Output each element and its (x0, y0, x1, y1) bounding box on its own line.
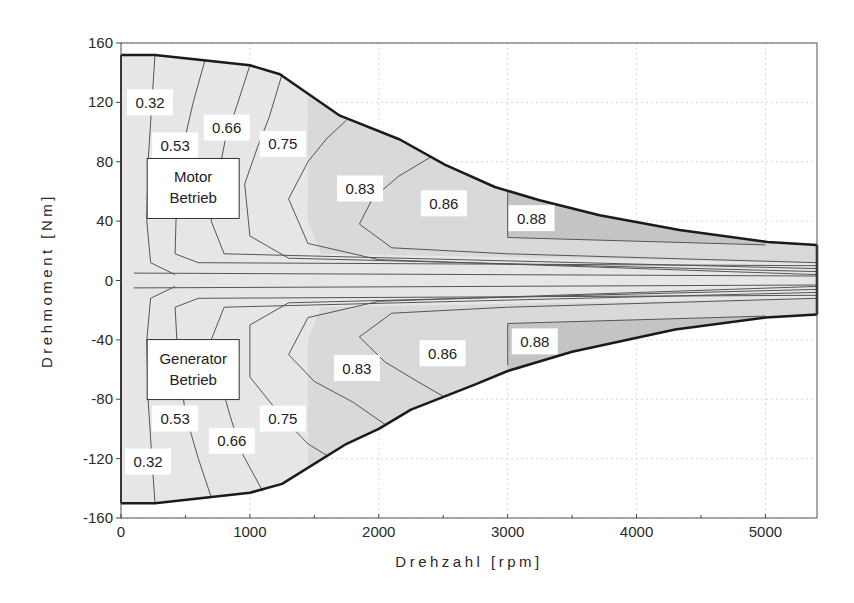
efficiency-map-chart: 01000200030004000500016012080400-40-80-1… (0, 0, 854, 603)
y-tick-label: 160 (88, 34, 113, 51)
x-tick-label: 2000 (362, 523, 395, 540)
x-tick-label: 1000 (233, 523, 266, 540)
y-tick-label: -160 (83, 509, 113, 526)
contour-label-text: 0.83 (342, 360, 371, 377)
y-tick-label: -120 (83, 450, 113, 467)
y-tick-label: 80 (96, 153, 113, 170)
contour-label-text: 0.75 (268, 410, 297, 427)
contour-label-text: 0.75 (268, 135, 297, 152)
contour-label-text: 0.88 (517, 210, 546, 227)
region-label-line: Motor (174, 168, 212, 185)
contour-label: 0.83 (337, 175, 383, 201)
region-label-box (147, 158, 239, 218)
y-axis-title: Drehmoment [Nm] (38, 193, 55, 368)
contour-label-text: 0.53 (161, 410, 190, 427)
motor-operation-label: MotorBetrieb (147, 158, 239, 218)
contour-label-text: 0.83 (345, 180, 374, 197)
region-label-line: Betrieb (169, 371, 217, 388)
x-axis-title: Drehzahl [rpm] (395, 553, 542, 570)
contour-label-text: 0.53 (161, 137, 190, 154)
contour-label: 0.75 (260, 131, 306, 157)
region-label-line: Betrieb (169, 189, 217, 206)
contour-label: 0.53 (152, 132, 198, 158)
contour-label: 0.88 (512, 328, 558, 354)
x-tick-label: 5000 (749, 523, 782, 540)
contour-label: 0.83 (334, 355, 380, 381)
contour-label-text: 0.86 (429, 195, 458, 212)
x-tick-label: 3000 (491, 523, 524, 540)
y-tick-label: 0 (105, 272, 113, 289)
contour-label: 0.86 (420, 340, 466, 366)
contour-label: 0.86 (421, 190, 467, 216)
contour-label: 0.53 (152, 406, 198, 432)
y-tick-label: 120 (88, 93, 113, 110)
contour-label: 0.32 (127, 89, 173, 115)
contour-label-text: 0.32 (135, 94, 164, 111)
contour-label-text: 0.86 (428, 345, 457, 362)
contour-label: 0.66 (209, 428, 255, 454)
y-tick-label: 40 (96, 212, 113, 229)
contour-label: 0.88 (509, 205, 555, 231)
x-tick-label: 0 (117, 523, 125, 540)
contour-label: 0.32 (125, 449, 171, 475)
y-tick-label: -80 (91, 390, 113, 407)
contour-label: 0.75 (260, 406, 306, 432)
contour-label-text: 0.66 (217, 432, 246, 449)
contour-label-text: 0.88 (520, 333, 549, 350)
generator-operation-label: GeneratorBetrieb (147, 340, 239, 400)
contour-label-text: 0.32 (133, 453, 162, 470)
region-label-box (147, 340, 239, 400)
y-tick-label: -40 (91, 331, 113, 348)
contour-label: 0.66 (204, 115, 250, 141)
x-tick-label: 4000 (620, 523, 653, 540)
contour-label-text: 0.66 (212, 119, 241, 136)
region-label-line: Generator (159, 350, 227, 367)
